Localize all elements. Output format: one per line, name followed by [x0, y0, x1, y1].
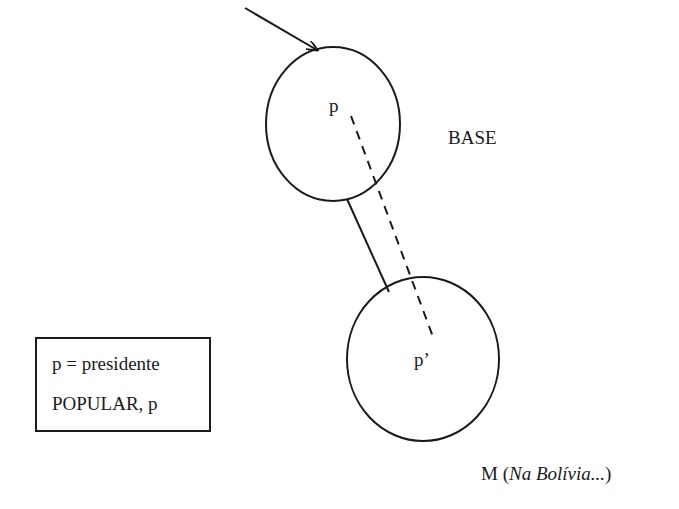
- base-label: BASE: [448, 128, 497, 147]
- caption-italic: Na Bolívia...: [509, 463, 605, 484]
- upper-circle: [266, 47, 400, 201]
- solid-connector-line: [347, 199, 389, 292]
- dashed-connector-line: [351, 116, 433, 337]
- legend-line-president: p = presidente: [52, 354, 160, 373]
- caption-close: ): [605, 463, 611, 484]
- caption: M (Na Bolívia...): [481, 464, 611, 483]
- legend-line-popular: POPULAR, p: [52, 394, 158, 413]
- incoming-arrow: [245, 8, 317, 50]
- legend-box: p = presidente POPULAR, p: [35, 337, 211, 432]
- lower-node-label: p’: [414, 350, 430, 369]
- upper-node-label: p: [329, 96, 339, 115]
- caption-main: M (: [481, 463, 509, 484]
- diagram-canvas: [0, 0, 679, 509]
